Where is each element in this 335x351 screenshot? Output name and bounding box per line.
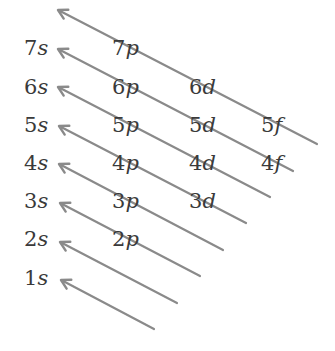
aufbau-diagram: 7s7p6s6p6d5s5p5d5f4s4p4d4f3s3p3d2s2p1s [0, 0, 335, 351]
principal-quantum-number: 1 [24, 266, 37, 290]
diagonal-arrow [61, 280, 154, 329]
orbital-label-6s: 6s [24, 77, 48, 98]
subshell-letter: p [125, 189, 138, 213]
orbital-label-3p: 3p [112, 191, 139, 212]
principal-quantum-number: 3 [189, 189, 202, 213]
subshell-letter: f [274, 113, 282, 137]
principal-quantum-number: 5 [189, 113, 202, 137]
orbital-label-5f: 5f [261, 115, 282, 136]
subshell-letter: p [125, 151, 138, 175]
orbital-label-4s: 4s [24, 153, 48, 174]
subshell-letter: d [202, 75, 215, 99]
subshell-letter: s [37, 75, 48, 99]
subshell-letter: d [202, 189, 215, 213]
subshell-letter: s [37, 189, 48, 213]
subshell-letter: s [37, 151, 48, 175]
principal-quantum-number: 5 [112, 113, 125, 137]
subshell-letter: s [37, 227, 48, 251]
orbital-label-5p: 5p [112, 115, 139, 136]
principal-quantum-number: 4 [261, 151, 274, 175]
principal-quantum-number: 4 [24, 151, 37, 175]
principal-quantum-number: 5 [261, 113, 274, 137]
orbital-label-1s: 1s [24, 268, 48, 289]
subshell-letter: f [274, 151, 282, 175]
principal-quantum-number: 4 [189, 151, 202, 175]
principal-quantum-number: 2 [24, 227, 37, 251]
orbital-label-3d: 3d [189, 191, 216, 212]
principal-quantum-number: 6 [112, 75, 125, 99]
filling-order-arrows [0, 0, 335, 351]
subshell-letter: p [125, 113, 138, 137]
subshell-letter: s [37, 113, 48, 137]
principal-quantum-number: 7 [24, 36, 37, 60]
subshell-letter: d [202, 113, 215, 137]
principal-quantum-number: 6 [189, 75, 202, 99]
subshell-letter: d [202, 151, 215, 175]
orbital-label-4p: 4p [112, 153, 139, 174]
subshell-letter: p [125, 36, 138, 60]
orbital-label-4d: 4d [189, 153, 216, 174]
subshell-letter: p [125, 75, 138, 99]
subshell-letter: s [37, 36, 48, 60]
diagonal-arrow [58, 49, 293, 171]
principal-quantum-number: 3 [112, 189, 125, 213]
principal-quantum-number: 5 [24, 113, 37, 137]
orbital-label-7p: 7p [112, 38, 139, 59]
orbital-label-4f: 4f [261, 153, 282, 174]
diagonal-arrow [59, 126, 246, 223]
orbital-label-7s: 7s [24, 38, 48, 59]
principal-quantum-number: 7 [112, 36, 125, 60]
orbital-label-5d: 5d [189, 115, 216, 136]
principal-quantum-number: 4 [112, 151, 125, 175]
orbital-label-5s: 5s [24, 115, 48, 136]
principal-quantum-number: 2 [112, 227, 125, 251]
orbital-label-6d: 6d [189, 77, 216, 98]
principal-quantum-number: 3 [24, 189, 37, 213]
orbital-label-6p: 6p [112, 77, 139, 98]
subshell-letter: s [37, 266, 48, 290]
orbital-label-2s: 2s [24, 229, 48, 250]
subshell-letter: p [125, 227, 138, 251]
orbital-label-3s: 3s [24, 191, 48, 212]
orbital-label-2p: 2p [112, 229, 139, 250]
principal-quantum-number: 6 [24, 75, 37, 99]
